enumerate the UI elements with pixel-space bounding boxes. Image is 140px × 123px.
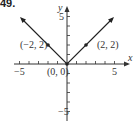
point-left-label: (−2, 2): [20, 39, 47, 51]
x-axis-label: x: [127, 52, 133, 63]
point-origin-label: (0, 0): [47, 66, 69, 78]
y-min-tick-label: −5: [58, 106, 69, 117]
x-max-tick-label: 5: [112, 66, 117, 77]
point-right-label: (2, 2): [97, 39, 119, 51]
x-min-tick-label: −5: [14, 66, 25, 77]
graph: y x 5 −5 −5 5 (−2, 2) (2, 2) (0, 0): [0, 0, 140, 123]
y-axis-arrow-icon: [65, 6, 70, 12]
point-2-2: [84, 43, 88, 47]
y-max-tick-label: 5: [59, 11, 64, 22]
